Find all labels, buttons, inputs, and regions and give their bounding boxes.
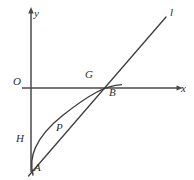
point-label-A: A [34, 162, 41, 173]
tangent-line-l [29, 17, 167, 176]
line-l-label: l [170, 7, 173, 18]
curve-AB [32, 85, 122, 175]
y-axis-arrow-icon [28, 7, 34, 14]
point-label-B: B [109, 87, 116, 98]
geometry-figure: y x O l G B P H A [0, 0, 194, 180]
x-axis-label: x [181, 83, 186, 94]
y-axis-label: y [34, 8, 39, 19]
point-label-H: H [16, 133, 24, 144]
point-label-G: G [85, 69, 93, 80]
point-label-P: P [56, 122, 63, 133]
origin-label: O [13, 76, 21, 87]
figure-canvas [0, 0, 194, 180]
